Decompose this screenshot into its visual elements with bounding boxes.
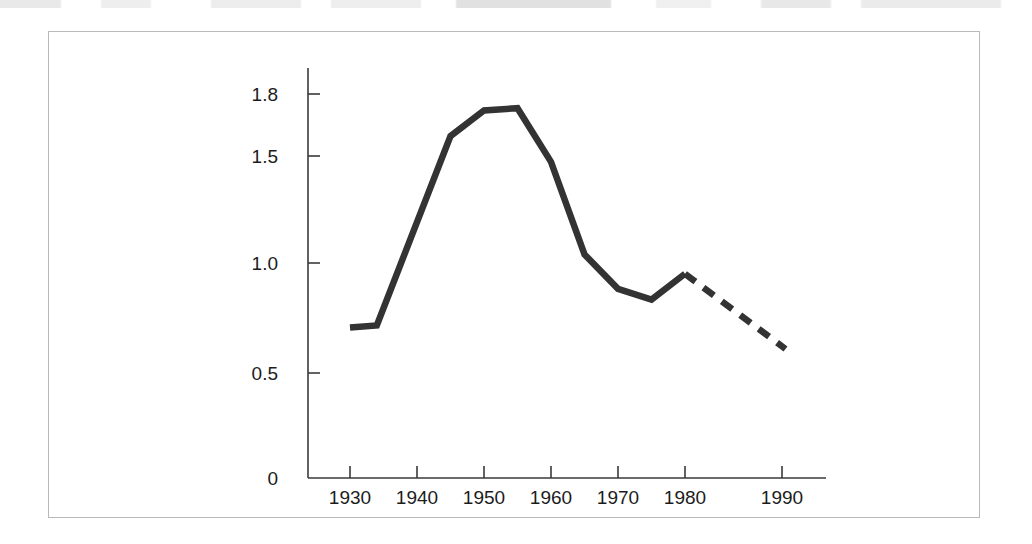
data-line-historical xyxy=(350,108,685,327)
data-line-projected xyxy=(685,274,786,349)
chart-plot-area: Net Growth Rate U.S. Population (percent… xyxy=(0,0,1032,544)
y-axis-ticks xyxy=(308,94,320,373)
x-axis-ticks xyxy=(350,466,782,478)
chart-svg xyxy=(0,0,1032,544)
